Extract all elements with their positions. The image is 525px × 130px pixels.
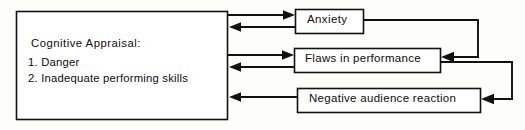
flaws-in-performance-label: Flaws in performance: [305, 52, 421, 64]
edge-cognitive-to-anxiety: [228, 10, 295, 20]
diagram-canvas: Cognitive Appraisal: 1. Danger 2. Inadeq…: [0, 0, 525, 130]
negative-audience-reaction-label: Negative audience reaction: [309, 92, 456, 104]
anxiety-label: Anxiety: [307, 13, 348, 25]
cognitive-appraisal-title: Cognitive Appraisal:: [31, 37, 141, 49]
edge-negative-to-cognitive: [229, 92, 297, 102]
cognitive-appraisal-item-2: 2. Inadequate performing skills: [28, 72, 188, 84]
edge-flaws-to-cognitive: [229, 62, 294, 72]
cognitive-appraisal-item-1: 1. Danger: [28, 56, 79, 68]
edge-anxiety-to-cognitive: [229, 22, 295, 32]
edge-cognitive-to-flaws: [228, 50, 294, 60]
